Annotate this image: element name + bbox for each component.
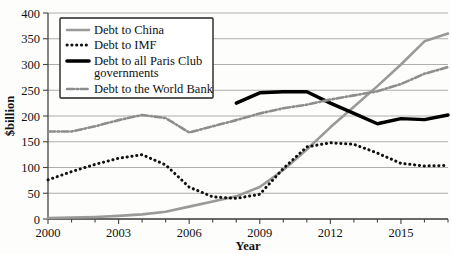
y-tick-label-250: 250 — [21, 84, 40, 98]
legend-label-debt-to-imf: Debt to IMF — [94, 38, 157, 52]
legend-label-debt-to-china: Debt to China — [94, 23, 165, 37]
x-tick-label-2012: 2012 — [318, 226, 343, 240]
y-tick-label-350: 350 — [21, 32, 40, 46]
x-axis-title: Year — [236, 239, 261, 253]
chart-legend: Debt to China Debt to IMF Debt to all Pa… — [60, 18, 214, 98]
legend-label-debt-to-world-bank: Debt to the World Bank — [94, 82, 214, 96]
x-tick-label-2006: 2006 — [177, 226, 202, 240]
x-tick-label-2009: 2009 — [247, 226, 272, 240]
y-tick-label-300: 300 — [21, 58, 40, 72]
debt-line-chart: 050100150200250300350400 200020032006200… — [0, 0, 451, 254]
x-tick-label-2000: 2000 — [36, 226, 61, 240]
legend-label-debt-to-paris-club-line2: governments — [94, 66, 159, 80]
x-tick-label-2015: 2015 — [388, 226, 413, 240]
y-tick-label-150: 150 — [21, 135, 40, 149]
y-tick-label-0: 0 — [34, 213, 40, 227]
y-tick-label-100: 100 — [21, 161, 40, 175]
y-tick-label-400: 400 — [21, 7, 40, 21]
y-axis-title: $billion — [3, 96, 17, 136]
y-tick-label-50: 50 — [28, 187, 41, 201]
y-tick-label-200: 200 — [21, 110, 40, 124]
x-tick-label-2003: 2003 — [106, 226, 131, 240]
chart-figure: 050100150200250300350400 200020032006200… — [0, 0, 451, 254]
